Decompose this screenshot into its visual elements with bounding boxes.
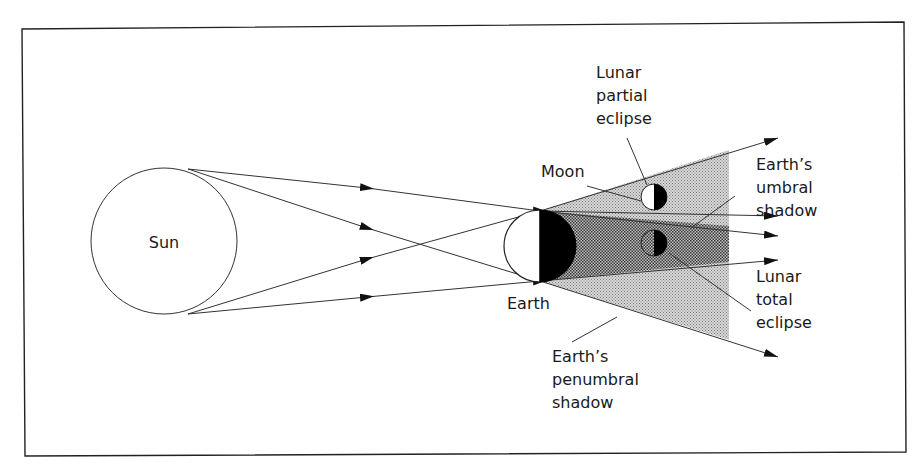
svg-text:shadow: shadow	[552, 393, 613, 412]
lunar-eclipse-diagram: Sun Earth Moon Lunar partial eclipse	[0, 0, 923, 475]
svg-text:Lunar: Lunar	[756, 267, 802, 286]
earth	[504, 210, 576, 282]
svg-text:total: total	[756, 290, 793, 309]
svg-text:partial: partial	[596, 86, 648, 105]
penumbral-shadow-label: Earth’s penumbral shadow	[552, 347, 639, 412]
svg-text:eclipse: eclipse	[596, 109, 652, 128]
svg-text:Lunar: Lunar	[596, 63, 642, 82]
moon-partial-eclipse	[641, 184, 667, 210]
umbral-shadow-label: Earth’s umbral shadow	[756, 155, 817, 220]
partial-eclipse-label: Lunar partial eclipse	[596, 63, 652, 128]
moon-label: Moon	[541, 162, 585, 181]
svg-text:eclipse: eclipse	[756, 313, 812, 332]
total-eclipse-label: Lunar total eclipse	[756, 267, 812, 332]
svg-text:umbral: umbral	[756, 178, 813, 197]
svg-text:Earth’s: Earth’s	[552, 347, 608, 366]
svg-text:Earth’s: Earth’s	[756, 155, 812, 174]
svg-text:shadow: shadow	[756, 201, 817, 220]
sun-label: Sun	[149, 233, 179, 252]
svg-text:penumbral: penumbral	[552, 370, 639, 389]
moon-total-eclipse	[641, 230, 667, 256]
earth-label: Earth	[507, 294, 550, 313]
